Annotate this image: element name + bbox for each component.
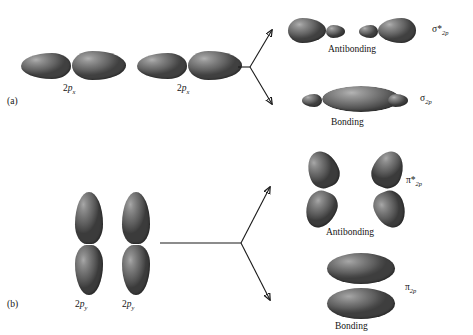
arrow-layer — [0, 0, 473, 335]
branch-arrow-a — [238, 30, 272, 104]
branch-arrow-b — [160, 187, 270, 300]
figure-canvas: (a) 2px 2px Antibonding σ*2p Bonding σ2p… — [0, 0, 473, 335]
